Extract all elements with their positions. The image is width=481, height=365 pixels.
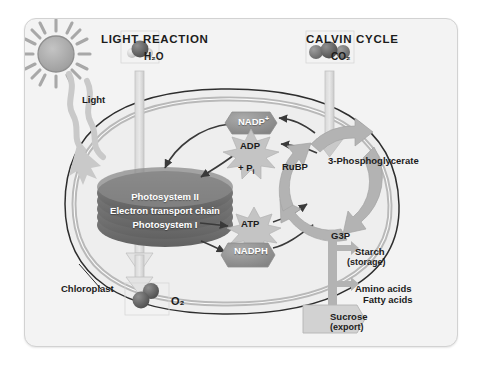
starch-text: Starch bbox=[355, 246, 386, 257]
amino-acids-text: Amino acids bbox=[355, 283, 413, 294]
label-inorganic-phosphate: + Pi bbox=[238, 162, 254, 177]
nadp-charge: + bbox=[265, 115, 269, 122]
label-3-phosphoglycerate: 3-Phosphoglycerate bbox=[328, 155, 419, 166]
label-light: Light bbox=[82, 94, 105, 105]
nadp-text: NADP bbox=[238, 116, 265, 127]
label-water: H₂O bbox=[144, 51, 163, 62]
label-carbon-dioxide: CO₂ bbox=[331, 51, 350, 62]
starch-note: (storage) bbox=[347, 257, 386, 268]
heading-light-reaction: LIGHT REACTION bbox=[101, 33, 209, 45]
label-oxygen: O₂ bbox=[171, 296, 184, 307]
diagram-panel: LIGHT REACTION CALVIN CYCLE Light Chloro… bbox=[24, 18, 458, 347]
figure-canvas: LIGHT REACTION CALVIN CYCLE Light Chloro… bbox=[0, 0, 481, 365]
label-photosystem-i: Photosystem I bbox=[133, 219, 198, 230]
heading-calvin-cycle: CALVIN CYCLE bbox=[306, 33, 399, 45]
sun-icon bbox=[25, 20, 90, 87]
label-g3p: G3P bbox=[331, 230, 350, 241]
fatty-acids-text: Fatty acids bbox=[363, 294, 413, 305]
sucrose-text: Sucrose bbox=[330, 311, 368, 322]
phosphate-text: + P bbox=[238, 162, 253, 173]
label-nadp-plus: NADP+ bbox=[238, 113, 269, 127]
phosphate-sub: i bbox=[253, 168, 255, 175]
label-amino-fatty-acids: Amino acids Fatty acids bbox=[355, 283, 413, 305]
label-chloroplast: Chloroplast bbox=[61, 283, 114, 294]
label-sucrose-export: Sucrose (export) bbox=[330, 311, 368, 333]
label-photosystem-ii: Photosystem II bbox=[131, 191, 199, 202]
label-adp: ADP bbox=[240, 140, 260, 151]
label-starch-storage: Starch (storage) bbox=[355, 246, 386, 268]
label-electron-transport-chain: Electron transport chain bbox=[110, 205, 220, 216]
label-nadph: NADPH bbox=[234, 245, 268, 256]
label-atp: ATP bbox=[241, 218, 259, 229]
label-rubp: RuBP bbox=[282, 161, 308, 172]
sucrose-note: (export) bbox=[330, 322, 368, 333]
